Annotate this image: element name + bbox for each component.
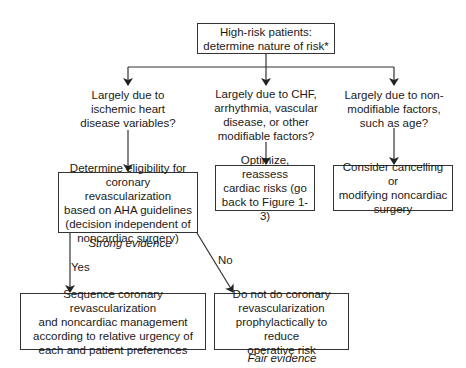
yes-label: Yes: [71, 261, 90, 273]
optimize-text: Optimize, reassess cardiac risks (go bac…: [220, 153, 310, 223]
question-nonmodifiable: Largely due to non- modifiable factors, …: [334, 88, 454, 130]
question-modifiable: Largely due to CHF, arrhythmia, vascular…: [201, 87, 331, 143]
fair-evidence-label: Fair evidence: [222, 352, 342, 364]
sequence-text: Sequence coronary revascularization and …: [25, 287, 201, 357]
question-modifiable-text: Largely due to CHF, arrhythmia, vascular…: [214, 88, 318, 142]
root-text: High-risk patients: determine nature of …: [203, 25, 328, 53]
cancel-text: Consider cancelling or modifying noncard…: [338, 160, 448, 216]
root-node: High-risk patients: determine nature of …: [197, 23, 335, 54]
no-revasc-node: Do not do coronary revascularization pro…: [214, 293, 349, 350]
no-label: No: [218, 254, 233, 266]
question-ischemic-text: Largely due to ischemic heart disease va…: [80, 89, 175, 129]
optimize-node: Optimize, reassess cardiac risks (go bac…: [215, 165, 315, 211]
no-revasc-text: Do not do coronary revascularization pro…: [219, 287, 344, 357]
cancel-node: Consider cancelling or modifying noncard…: [333, 165, 453, 211]
question-nonmodifiable-text: Largely due to non- modifiable factors, …: [344, 89, 443, 129]
eligibility-node: Determine eligibility for coronary revas…: [58, 172, 198, 233]
eligibility-text: Determine eligibility for coronary revas…: [63, 161, 193, 245]
strong-evidence-label: Strong evidence: [70, 237, 190, 249]
sequence-node: Sequence coronary revascularization and …: [20, 293, 206, 350]
question-ischemic: Largely due to ischemic heart disease va…: [68, 88, 188, 130]
